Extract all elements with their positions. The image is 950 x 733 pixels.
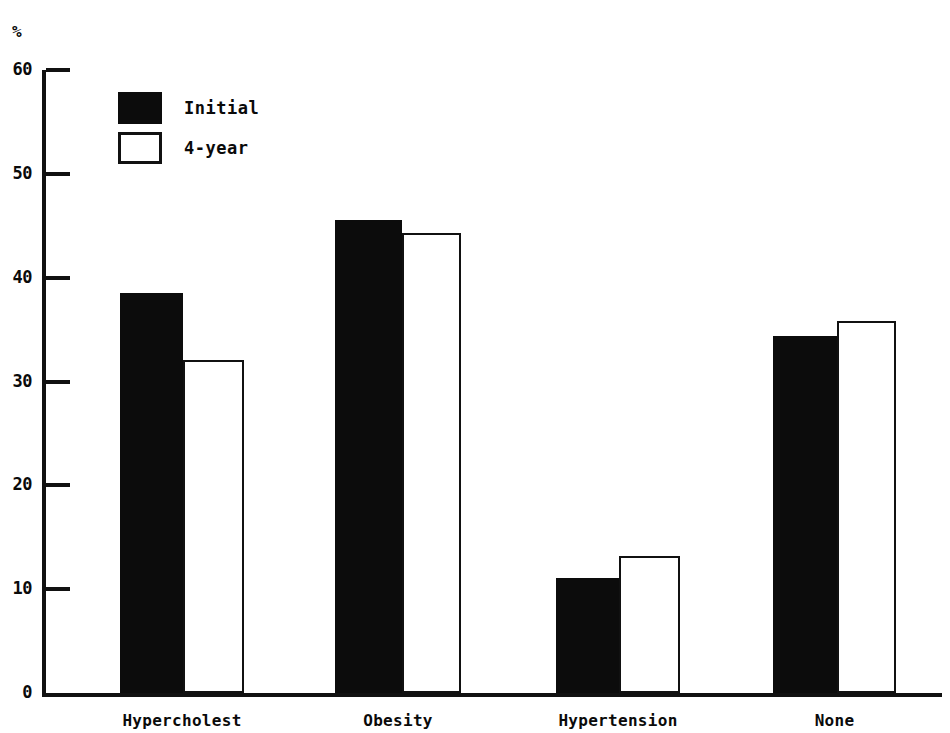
y-axis-tick: [46, 483, 70, 487]
hollow-square-icon: [118, 132, 162, 164]
x-axis-label-none: None: [705, 711, 950, 730]
bar-chart: % 0102030405060 HypercholestObesityHyper…: [0, 0, 950, 733]
y-axis-tick-label: 50: [0, 163, 32, 183]
bar-hypercholest-4-year: [183, 360, 244, 693]
filled-square-icon: [118, 92, 162, 124]
y-axis-tick-label: 0: [0, 682, 32, 702]
bar-hypercholest-initial: [120, 293, 183, 693]
y-axis-tick-label: 30: [0, 371, 32, 391]
y-axis-tick-label: 60: [0, 59, 32, 79]
y-axis-tick: [46, 587, 70, 591]
y-axis-tick-label: 20: [0, 474, 32, 494]
legend-entry-label: Initial: [184, 98, 259, 118]
legend-entry: Initial: [118, 88, 259, 128]
y-axis-tick: [46, 380, 70, 384]
x-axis-line: [42, 693, 942, 697]
legend: Initial 4-year: [118, 88, 259, 168]
bar-obesity-initial: [335, 220, 402, 693]
bar-none-4-year: [837, 321, 896, 693]
y-axis-tick-label: 40: [0, 267, 32, 287]
legend-entry-label: 4-year: [184, 138, 248, 158]
y-axis-unit-label: %: [12, 22, 22, 41]
bar-hypertension-initial: [556, 578, 619, 693]
plot-area: % 0102030405060 HypercholestObesityHyper…: [0, 0, 950, 733]
y-axis-tick-label: 10: [0, 578, 32, 598]
y-axis-tick: [46, 68, 70, 72]
y-axis-tick: [46, 172, 70, 176]
legend-entry: 4-year: [118, 128, 259, 168]
y-axis-tick: [46, 276, 70, 280]
bar-none-initial: [773, 336, 837, 693]
bar-obesity-4-year: [402, 233, 461, 693]
y-axis-line: [42, 70, 46, 697]
bar-hypertension-4-year: [619, 556, 680, 693]
